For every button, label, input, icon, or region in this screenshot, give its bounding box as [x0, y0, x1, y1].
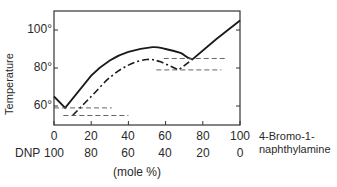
dnp-tick-80: 80 [76, 146, 106, 160]
solidus-curve [73, 59, 194, 116]
x-axis-unit-label: (mole %) [113, 165, 161, 179]
y-tick-60: 60° [16, 98, 52, 112]
dnp-tick-60: 60 [113, 146, 143, 160]
x-tick-0: 0 [39, 129, 69, 143]
compound-label-line2: naphthylamine [259, 143, 331, 156]
y-tick-100: 100° [16, 22, 52, 36]
x-tick-60: 60 [150, 129, 180, 143]
x-tick-20: 20 [76, 129, 106, 143]
secondary-axis-name: DNP [15, 146, 40, 160]
axis-ticks [54, 30, 240, 125]
y-tick-80: 80° [16, 60, 52, 74]
x-tick-80: 80 [188, 129, 218, 143]
compound-label-line1: 4-Bromo-1- [259, 130, 315, 143]
dnp-tick-0: 0 [225, 146, 255, 160]
dnp-tick-20: 20 [188, 146, 218, 160]
x-tick-40: 40 [113, 129, 143, 143]
data-series [54, 21, 240, 116]
dnp-tick-100: 100 [39, 146, 69, 160]
liquidus-curve [54, 21, 240, 108]
dnp-tick-40: 40 [150, 146, 180, 160]
x-tick-100: 100 [225, 129, 255, 143]
y-axis-label: Temperature [3, 44, 15, 124]
